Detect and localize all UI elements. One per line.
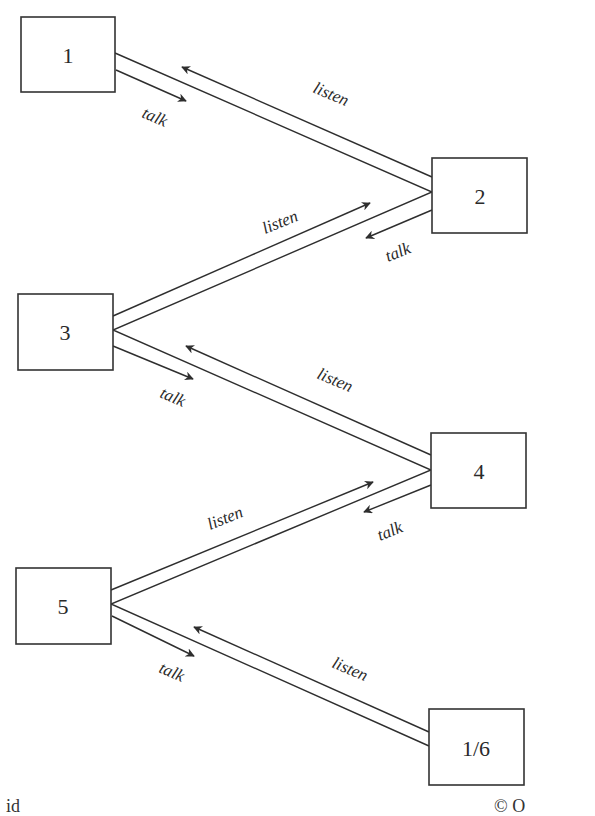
talk-label: talk (374, 517, 405, 544)
talk-label: talk (156, 658, 187, 686)
talk-arrow (366, 210, 432, 238)
edge-5-6: listen talk (112, 616, 429, 732)
listen-arrow (194, 627, 429, 732)
listen-arrow (113, 203, 370, 316)
listen-arrow (182, 67, 432, 177)
talk-arrow (116, 70, 186, 101)
footer-right-text: © O (494, 797, 525, 815)
node-label: 5 (58, 594, 69, 619)
talk-label: talk (139, 103, 170, 131)
node-4: 4 (431, 433, 526, 508)
node-2: 2 (432, 158, 527, 233)
node-1-6: 1/6 (429, 709, 524, 785)
node-label: 1/6 (462, 736, 490, 761)
listen-label: listen (204, 502, 245, 533)
listen-label: listen (259, 206, 300, 237)
node-1: 1 (21, 17, 115, 92)
node-label: 4 (474, 459, 485, 484)
node-label: 3 (60, 320, 71, 345)
talk-label: talk (382, 238, 413, 265)
node-3: 3 (18, 294, 113, 370)
edge-4-5: listen talk (111, 482, 431, 590)
edge-2-3: listen talk (113, 203, 432, 316)
listen-arrow (111, 482, 373, 590)
talk-arrow (113, 346, 193, 379)
talk-label: talk (157, 383, 188, 411)
talk-arrow (364, 485, 431, 512)
node-label: 2 (475, 184, 486, 209)
listen-arrow (186, 346, 431, 455)
listen-label: listen (310, 78, 351, 110)
listen-label: listen (314, 364, 355, 396)
node-5: 5 (16, 568, 111, 644)
footer-left-text: id (6, 797, 20, 815)
listen-label: listen (329, 653, 370, 685)
node-label: 1 (63, 43, 74, 68)
